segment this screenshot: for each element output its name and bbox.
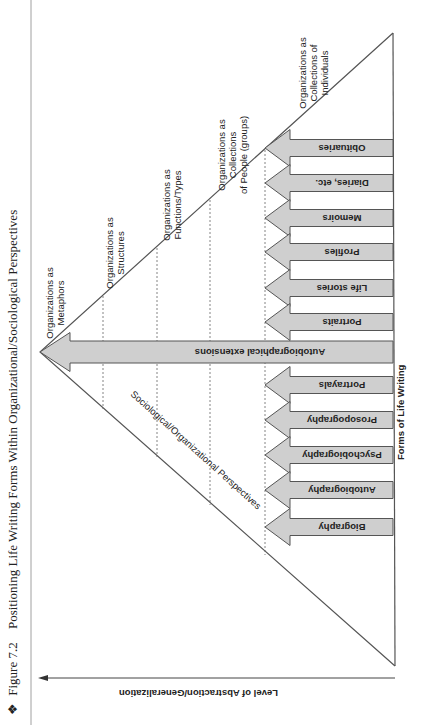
svg-text:Sociological/Organizational Pe: Sociological/Organizational Perspectives <box>129 388 264 511</box>
figure-number: Figure 7.2 <box>5 642 20 695</box>
svg-text:Forms of Life Writing: Forms of Life Writing <box>395 364 406 460</box>
form-arrow: Life stories <box>265 270 393 307</box>
figure-title: Positioning Life Writing Forms Within Or… <box>5 210 20 629</box>
level-label-metaphors: Organizations asMetaphors <box>44 267 66 339</box>
level-label-functions: Organizations asFunctions/Types <box>161 169 183 241</box>
level-label-groups: Organizations asCollectionsof People (gr… <box>216 116 249 194</box>
form-label: Prosopography <box>306 415 377 426</box>
form-arrow: Obituaries <box>265 130 393 167</box>
form-label: Portraits <box>322 317 361 328</box>
form-label: Autobiography <box>308 485 376 496</box>
level-label-individuals: Organizations asCollections ofIndividual… <box>297 37 330 109</box>
form-label: Obituaries <box>319 143 366 154</box>
form-arrow: Profiles <box>265 234 393 271</box>
form-label: Biography <box>318 522 366 533</box>
form-label: Autobiographical extensions <box>195 347 325 358</box>
form-arrow: Memoirs <box>265 200 393 237</box>
abstraction-axis-arrowhead-icon <box>38 675 48 681</box>
form-label: Diaries, etc. <box>315 178 368 189</box>
life-writing-diagram: ❖ Figure 7.2 Positioning Life Writing Fo… <box>0 0 421 725</box>
form-arrow: Autobiography <box>265 472 393 509</box>
form-arrow: Autobiographical extensions <box>40 333 393 372</box>
x-axis-label: Forms of Life Writing <box>395 364 406 460</box>
y-axis-label: Level of Abstraction/Generalization <box>119 688 278 699</box>
form-arrow: Portrayals <box>265 367 393 404</box>
svg-text:❖ Figure 7.2 Posit: ❖ Figure 7.2 Positioning Life Writing Fo… <box>5 210 20 715</box>
form-arrow: Psychobiography <box>265 437 393 474</box>
form-label: Life stories <box>317 283 368 294</box>
form-arrow: Diaries, etc. <box>265 165 393 202</box>
diagonal-label: Sociological/Organizational Perspectives <box>129 388 264 511</box>
form-arrow: Prosopography <box>265 402 393 439</box>
figure-caption: ❖ Figure 7.2 Positioning Life Writing Fo… <box>5 210 20 715</box>
form-arrow: Biography <box>265 509 393 546</box>
form-label: Portrayals <box>319 380 365 391</box>
form-label: Psychobiography <box>301 450 381 461</box>
figure-bullet: ❖ <box>5 703 20 715</box>
svg-text:Level of Abstraction/Generaliz: Level of Abstraction/Generalization <box>119 688 278 699</box>
form-label: Memoirs <box>322 213 361 224</box>
form-arrow: Portraits <box>265 304 393 341</box>
form-label: Profiles <box>325 247 360 258</box>
